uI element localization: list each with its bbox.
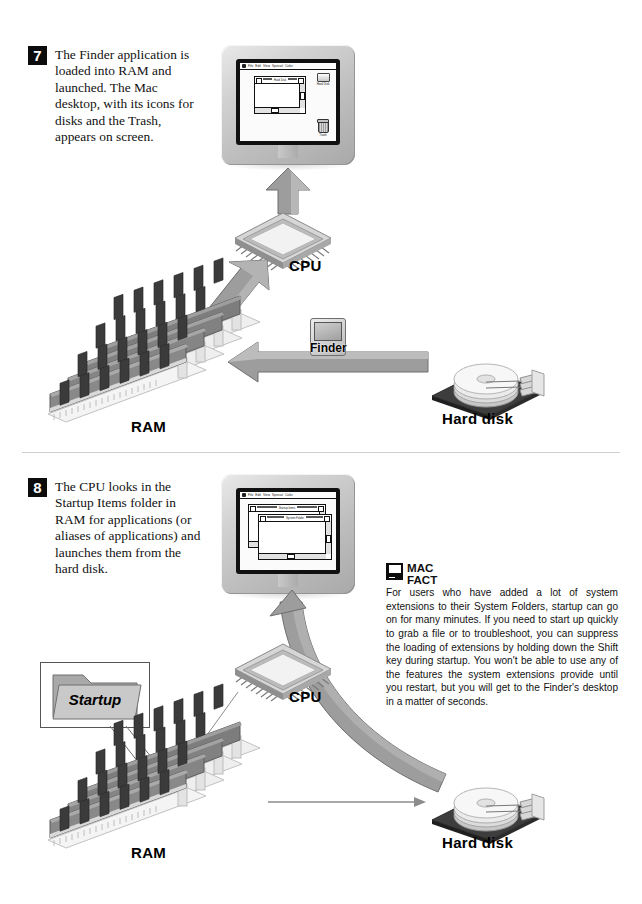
- monitor-neck: [278, 574, 298, 587]
- window-titlebar[interactable]: System Folder: [259, 515, 331, 522]
- vertical-scrollbar[interactable]: [299, 83, 305, 108]
- step-8-badge: 8: [28, 478, 47, 497]
- step-8-text: The CPU looks in the Startup Items folde…: [55, 479, 205, 577]
- horizontal-scrollbar[interactable]: [259, 553, 326, 559]
- apple-menu-icon[interactable]: [242, 64, 246, 68]
- mac-computer-icon: [386, 563, 403, 580]
- desktop-icon-hard-disk[interactable]: Hard Disk: [313, 73, 333, 86]
- menu-item-view[interactable]: View: [263, 493, 270, 497]
- mac-fact-box: MAC FACT For users who have added a lot …: [386, 562, 618, 709]
- step-7-block: 7 The Finder application is loaded into …: [28, 46, 208, 156]
- step-8-block: 8 The CPU looks in the Startup Items fol…: [28, 478, 208, 588]
- mac-fact-body: For users who have added a lot of system…: [386, 587, 618, 707]
- menu-bar[interactable]: File Edit View Special Color: [240, 63, 336, 70]
- scroll-thumb[interactable]: [271, 108, 279, 113]
- window-system-folder[interactable]: System Folder: [258, 514, 332, 560]
- window-zoom-box[interactable]: [318, 506, 324, 512]
- hard-disk-label-7: Hard disk: [442, 410, 513, 427]
- window-close-box[interactable]: [250, 506, 256, 512]
- vertical-scrollbar[interactable]: [325, 521, 331, 554]
- menu-item-edit[interactable]: Edit: [255, 493, 261, 497]
- illustration-page: 7 The Finder application is loaded into …: [0, 0, 642, 904]
- arrow-ram-to-harddisk-thin: [268, 794, 428, 810]
- ram-label-8: RAM: [131, 844, 166, 861]
- desktop-screen: File Edit View Special Color Hard Disk T…: [240, 63, 336, 141]
- window-titlebar[interactable]: Hard Disk: [255, 77, 305, 84]
- menu-item-special[interactable]: Special: [272, 493, 283, 497]
- menu-item-view[interactable]: View: [263, 64, 270, 68]
- window-close-box[interactable]: [260, 516, 266, 522]
- menu-item-special[interactable]: Special: [272, 64, 283, 68]
- startup-folder-callout: Startup: [40, 662, 150, 728]
- hard-disk-icon: [317, 73, 330, 82]
- scroll-thumb[interactable]: [326, 535, 331, 543]
- window-zoom-box[interactable]: [298, 78, 304, 84]
- apple-menu-icon[interactable]: [242, 493, 246, 497]
- window-title: Startup Items: [277, 506, 298, 510]
- finder-window[interactable]: Hard Disk: [254, 76, 306, 114]
- hard-disk-8: Hard disk: [424, 772, 549, 852]
- window-close-box[interactable]: [256, 78, 262, 84]
- hard-disk-label-8: Hard disk: [442, 834, 513, 851]
- cpu-label-7: CPU: [289, 257, 322, 274]
- trash-icon: [318, 120, 329, 133]
- window-zoom-box[interactable]: [324, 516, 330, 522]
- mac-fact-heading-line2: FACT: [386, 574, 618, 586]
- monitor-neck: [278, 145, 298, 158]
- desktop-icon-trash[interactable]: Trash: [314, 120, 332, 137]
- horizontal-scrollbar[interactable]: [255, 107, 300, 113]
- menu-bar[interactable]: File Edit View Special Color: [240, 492, 336, 499]
- window-title: System Folder: [284, 516, 306, 520]
- ram-modules-8: RAM: [36, 720, 276, 860]
- finder-icon-screen: [314, 322, 342, 341]
- ram-label-7: RAM: [131, 418, 166, 435]
- finder-label: Finder: [310, 341, 346, 355]
- monitor-bezel: File Edit View Special Color Startup Ite…: [236, 488, 340, 574]
- section-divider: [22, 452, 620, 453]
- menu-item-edit[interactable]: Edit: [255, 64, 261, 68]
- cpu-chip-8: CPU: [228, 636, 338, 706]
- step-7-text: The Finder application is loaded into RA…: [55, 47, 205, 145]
- ram-graphic: [36, 720, 276, 860]
- monitor-bezel: File Edit View Special Color Hard Disk T…: [236, 59, 340, 145]
- menu-item-color[interactable]: Color: [285, 64, 293, 68]
- ram-graphic: [36, 300, 266, 430]
- cpu-label-8: CPU: [289, 688, 322, 705]
- desktop-screen: File Edit View Special Color Startup Ite…: [240, 492, 336, 570]
- monitor-startup-items: File Edit View Special Color Startup Ite…: [221, 474, 355, 594]
- hard-disk-7: Hard disk: [424, 348, 549, 428]
- scroll-thumb[interactable]: [300, 92, 305, 100]
- window-title: Hard Disk: [272, 78, 288, 82]
- ram-modules-7: RAM: [36, 300, 266, 430]
- monitor-finder-desktop: File Edit View Special Color Hard Disk T…: [221, 45, 355, 165]
- menu-item-file[interactable]: File: [248, 64, 253, 68]
- scroll-thumb[interactable]: [287, 554, 295, 559]
- startup-folder-label: Startup: [41, 691, 149, 708]
- desktop-icon-label: Hard Disk: [313, 83, 333, 86]
- menu-item-file[interactable]: File: [248, 493, 253, 497]
- finder-application-icon[interactable]: Finder: [310, 318, 346, 356]
- desktop-icon-label: Trash: [314, 134, 332, 137]
- menu-item-color[interactable]: Color: [285, 493, 293, 497]
- step-7-badge: 7: [28, 46, 47, 65]
- window-titlebar[interactable]: Startup Items: [249, 505, 325, 512]
